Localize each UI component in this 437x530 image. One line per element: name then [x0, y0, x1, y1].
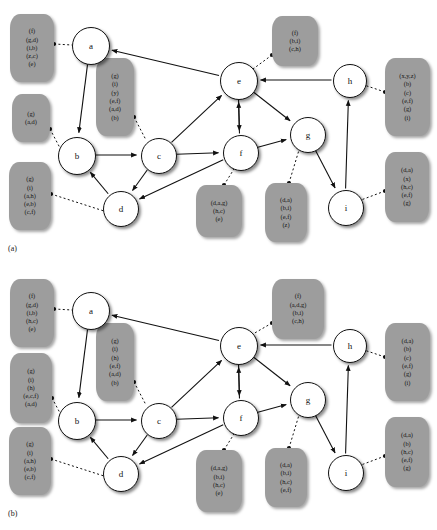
graph-node-g[interactable]: g	[290, 117, 326, 153]
graph-node-c[interactable]: c	[141, 403, 177, 439]
label-box-line: (i)	[27, 449, 33, 457]
label-box-line: (c)	[404, 354, 411, 362]
label-box-line: (f)	[292, 29, 298, 37]
edge-c-to-f	[176, 418, 218, 420]
label-box-box-f-for-f: (d,a,g)(h,c)(e)	[196, 185, 242, 237]
label-box-box-h-for-h: (d,a)(b)(c)(e,f)(g)(i)	[385, 323, 430, 401]
label-box-line: (g)	[404, 370, 411, 378]
label-box-line: (e,c,f)	[23, 392, 38, 400]
connector-box-b-upper	[52, 398, 60, 413]
graph-node-h[interactable]: h	[333, 64, 367, 98]
label-box-line: (c,h)	[292, 317, 304, 325]
graph-node-f[interactable]: f	[223, 400, 259, 436]
graph-node-label: h	[348, 76, 353, 86]
label-box-box-g-for-g: (d,a)(b,i)(e,f)(z)	[265, 183, 307, 242]
edge-d-to-b	[90, 437, 108, 458]
graph-node-i[interactable]: i	[328, 190, 364, 226]
label-box-box-e-for-e: (f)(a,d,g)(b,i)(c,h)	[272, 279, 324, 339]
label-box-line: (e,f)	[402, 97, 413, 105]
connector-box-a-left	[54, 44, 72, 45]
graph-node-label: c	[157, 416, 161, 426]
graph-node-label: c	[157, 151, 161, 161]
label-box-line: (e,f)	[402, 191, 413, 199]
connector-box-i	[361, 191, 385, 200]
graph-node-a[interactable]: a	[72, 292, 110, 330]
graph-node-f[interactable]: f	[223, 135, 259, 171]
label-box-line: (b,i)	[290, 37, 301, 45]
label-box-line: (b,i)	[281, 204, 292, 212]
label-box-line: (e,f)	[402, 456, 413, 464]
label-box-line: (e,f)	[402, 362, 413, 370]
graph-node-e[interactable]: e	[220, 327, 258, 365]
graph-node-label: h	[348, 341, 353, 351]
label-box-line: (g)	[111, 72, 118, 80]
label-box-box-a-left-for-a: (f)(g,d)(i,b)(z,c)(e)	[10, 14, 54, 82]
graph-node-h[interactable]: h	[333, 329, 367, 363]
label-box-line: (c)	[404, 89, 411, 97]
label-box-line: (d,a)	[280, 461, 292, 469]
graph-node-label: i	[345, 468, 348, 478]
edge-c-to-d	[133, 170, 148, 190]
label-box-line: (e,f)	[281, 213, 292, 221]
edge-f-to-g	[258, 140, 286, 148]
label-box-line: (a,d)	[109, 105, 121, 113]
graph-node-a[interactable]: a	[72, 27, 110, 65]
label-box-box-c-for-c: (g)(i)(h)(e,f)(a,d)(b)	[96, 323, 134, 401]
connector-box-f	[224, 434, 234, 450]
label-box-line: (e,b)	[24, 465, 36, 473]
label-box-line: (e)	[215, 489, 222, 497]
connector-box-f	[224, 169, 234, 185]
edge-i-to-h	[346, 100, 349, 188]
label-box-box-i-for-i: (d,a)(x)(h,c)(e,f)(g)	[385, 152, 429, 222]
label-box-line: (a,h)	[24, 457, 36, 465]
label-box-box-h-for-h: (x,y,z)(b)(c)(e,f)(g)(i)	[385, 58, 430, 136]
graph-node-b[interactable]: b	[58, 402, 96, 440]
label-box-line: (e,f)	[281, 486, 292, 494]
label-box-line: (b,i)	[214, 473, 225, 481]
label-box-line: (x,y,z)	[399, 72, 415, 80]
panel-caption-a: (a)	[8, 244, 17, 253]
graph-node-i[interactable]: i	[328, 455, 364, 491]
connector-box-h	[364, 85, 385, 92]
label-box-line: (f)	[29, 292, 35, 300]
edge-c-to-e	[171, 95, 221, 142]
label-box-line: (f)	[29, 27, 35, 35]
connector-box-h	[364, 350, 385, 357]
label-box-line: (a,h)	[24, 192, 36, 200]
label-box-line: (h,c)	[401, 183, 413, 191]
label-box-box-c-for-c: (g)(i)(y)(e,f)(a,d)(b)	[96, 58, 134, 136]
graph-node-label: d	[119, 204, 124, 214]
label-box-line: (i)	[28, 376, 34, 384]
graph-node-label: g	[306, 130, 311, 140]
label-box-line: (d,a)	[401, 166, 413, 174]
label-box-line: (c,h)	[289, 45, 301, 53]
label-box-box-b-lower-for-b: (g)(i)(a,h)(e,b)(c,f)	[9, 427, 51, 495]
edge-c-to-f	[176, 153, 218, 155]
graph-node-g[interactable]: g	[290, 382, 326, 418]
figure-panel-b: abcdefghi (f)(g,d)(i,b)(h,c)(e)(g)(i)(h)…	[0, 265, 437, 530]
label-box-line: (a,d,g)	[290, 301, 307, 309]
label-box-line: (i)	[404, 379, 410, 387]
edge-e-to-g	[253, 92, 290, 121]
graph-node-d[interactable]: d	[103, 191, 139, 227]
edge-a-to-b	[79, 329, 88, 397]
graph-canvas-b: abcdefghi (f)(g,d)(i,b)(h,c)(e)(g)(i)(h)…	[0, 265, 437, 505]
label-box-line: (a,d)	[25, 400, 37, 408]
graph-node-c[interactable]: c	[141, 138, 177, 174]
label-box-line: (x)	[403, 175, 410, 183]
graph-node-label: f	[240, 413, 243, 423]
graph-node-b[interactable]: b	[58, 137, 96, 175]
label-box-line: (c,f)	[25, 473, 36, 481]
label-box-line: (z,c)	[26, 52, 38, 60]
label-box-line: (i,b)	[27, 309, 38, 317]
connector-box-b-lower	[51, 459, 104, 476]
graph-node-e[interactable]: e	[220, 62, 258, 100]
connector-box-e	[253, 323, 272, 334]
connector-box-a-left	[54, 309, 72, 310]
label-box-line: (h,c)	[213, 207, 225, 215]
graph-node-d[interactable]: d	[103, 456, 139, 492]
label-box-line: (h)	[27, 384, 34, 392]
label-box-line: (g)	[27, 110, 34, 118]
label-box-line: (e)	[28, 325, 35, 333]
label-box-line: (a,d)	[25, 118, 37, 126]
